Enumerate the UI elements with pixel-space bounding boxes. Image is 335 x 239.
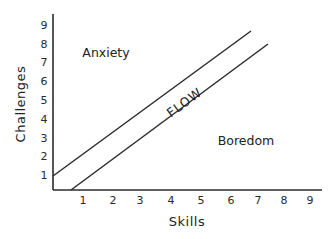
anxiety-label: Anxiety — [82, 45, 130, 60]
x-tick: 9 — [307, 194, 314, 207]
x-tick: 7 — [255, 194, 262, 207]
y-tick: 2 — [41, 150, 48, 163]
x-axis-title: Skills — [169, 214, 205, 229]
y-tick: 3 — [41, 132, 48, 145]
x-axis-ticks: 1 2 3 4 5 6 7 8 9 — [80, 194, 314, 207]
y-tick: 8 — [41, 38, 48, 51]
y-tick: 4 — [41, 113, 48, 126]
x-tick: 5 — [198, 194, 205, 207]
x-tick: 4 — [168, 194, 175, 207]
y-tick: 6 — [41, 75, 48, 88]
x-tick: 6 — [228, 194, 235, 207]
x-tick: 1 — [80, 194, 87, 207]
flow-diagram: 1 2 3 4 5 6 7 8 9 1 2 3 4 5 6 7 8 9 Skil… — [0, 0, 335, 239]
y-tick: 9 — [41, 19, 48, 32]
y-axis-ticks: 1 2 3 4 5 6 7 8 9 — [41, 19, 48, 182]
y-tick: 5 — [41, 94, 48, 107]
y-axis-title: Challenges — [13, 66, 28, 143]
x-tick: 8 — [281, 194, 288, 207]
boredom-label: Boredom — [218, 133, 275, 148]
x-tick: 3 — [137, 194, 144, 207]
x-tick: 2 — [110, 194, 117, 207]
y-tick: 1 — [41, 169, 48, 182]
y-tick: 7 — [41, 56, 48, 69]
